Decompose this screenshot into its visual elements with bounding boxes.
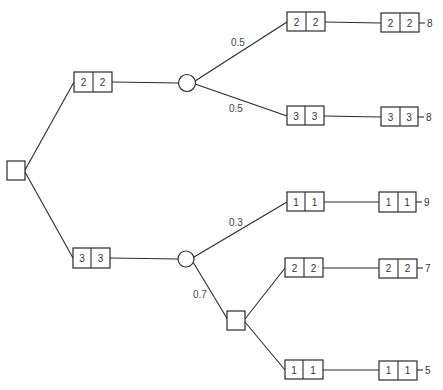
payoff-t4: 7 — [425, 263, 431, 274]
edge-t2-to-t2f — [324, 116, 381, 117]
state-b1-left: 2 — [81, 77, 87, 88]
edge-root-to-b1 — [25, 82, 74, 170]
decision-tree-diagram: 2 2 3 3 0.5 0.5 0.3 0.7 2 2 2 2 8 3 3 — [0, 0, 443, 390]
edge-chance2-to-t3 — [194, 202, 287, 257]
probability-label-2: 0.5 — [229, 103, 243, 114]
state-t3-right: 1 — [312, 197, 318, 208]
state-b1-right: 2 — [100, 77, 106, 88]
edge-decision2-to-t4 — [245, 268, 285, 319]
final-t1-left: 2 — [388, 18, 394, 29]
edge-chance1-to-t1 — [195, 22, 287, 81]
final-state-box-t4: 2 2 — [379, 259, 417, 278]
state-t3-left: 1 — [293, 197, 299, 208]
final-t3-right: 1 — [404, 197, 410, 208]
edge-root-to-b2 — [25, 172, 73, 258]
state-box-b1: 2 2 — [74, 72, 112, 92]
probability-label-4: 0.7 — [193, 289, 207, 300]
state-t4-left: 2 — [292, 263, 298, 274]
state-t4-right: 2 — [311, 263, 317, 274]
final-t4-right: 2 — [405, 263, 411, 274]
final-state-box-t1: 2 2 — [381, 13, 419, 32]
final-t1-right: 2 — [407, 18, 413, 29]
state-b2-left: 3 — [79, 253, 85, 264]
state-t2-left: 3 — [293, 111, 299, 122]
state-t5-right: 1 — [310, 365, 316, 376]
state-box-t1: 2 2 — [287, 12, 325, 31]
edge-t1-to-t1f — [325, 22, 381, 23]
edge-b2-to-chance2 — [110, 258, 178, 259]
probability-label-3: 0.3 — [229, 217, 243, 228]
probability-label-1: 0.5 — [231, 37, 245, 48]
final-t5-right: 1 — [405, 365, 411, 376]
final-state-box-t5: 1 1 — [379, 361, 417, 380]
final-t3-left: 1 — [386, 197, 392, 208]
final-t2-left: 3 — [388, 112, 394, 123]
final-t4-left: 2 — [386, 263, 392, 274]
payoff-t5: 5 — [425, 365, 431, 376]
final-t2-right: 3 — [406, 112, 412, 123]
state-t1-right: 2 — [313, 17, 319, 28]
edge-decision2-to-t5 — [245, 322, 285, 370]
chance-node-2 — [178, 251, 194, 267]
state-t5-left: 1 — [291, 365, 297, 376]
decision-node-2 — [227, 311, 245, 330]
state-box-t3: 1 1 — [287, 192, 324, 211]
state-box-t2: 3 3 — [287, 106, 324, 125]
state-box-t4: 2 2 — [285, 258, 323, 277]
state-t1-left: 2 — [294, 17, 300, 28]
final-t5-left: 1 — [386, 365, 392, 376]
payoff-t1: 8 — [427, 18, 433, 29]
state-t2-right: 3 — [312, 111, 318, 122]
final-state-box-t3: 1 1 — [379, 192, 416, 212]
payoff-t3: 9 — [424, 197, 430, 208]
root-decision-node — [7, 161, 25, 180]
state-box-b2: 3 3 — [73, 248, 110, 268]
state-b2-right: 3 — [98, 253, 104, 264]
edge-b1-to-chance1 — [112, 82, 179, 83]
final-state-box-t2: 3 3 — [381, 107, 418, 126]
chance-node-1 — [179, 75, 196, 92]
payoff-t2: 8 — [426, 112, 432, 123]
state-box-t5: 1 1 — [285, 360, 323, 379]
